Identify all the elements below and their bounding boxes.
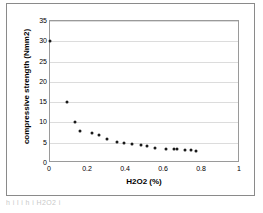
x-axis-tick-labels: 00.20.40.60.81: [49, 164, 239, 176]
x-axis-title: H2O2 (%): [49, 177, 239, 186]
x-axis-tick-label: 0: [47, 164, 51, 173]
data-point: [115, 140, 118, 143]
data-point: [123, 142, 126, 145]
data-point: [176, 148, 179, 151]
y-axis-title: compressive strength (Nmm2): [22, 16, 31, 158]
gridline: [50, 62, 238, 63]
data-point: [66, 100, 69, 103]
data-point: [189, 149, 192, 152]
x-axis-tick-label: 0.8: [196, 164, 206, 173]
x-axis-tick-label: 0.2: [82, 164, 92, 173]
x-axis-tick-label: 0.4: [120, 164, 130, 173]
data-point: [98, 134, 101, 137]
gridline: [50, 102, 238, 103]
gridline: [50, 21, 238, 22]
caption-fragment: h i l i h i H2O2 i: [6, 199, 256, 208]
data-point: [79, 129, 82, 132]
data-point: [90, 131, 93, 134]
data-point: [172, 148, 175, 151]
gridline: [50, 82, 238, 83]
data-point: [130, 142, 133, 145]
gridline: [50, 41, 238, 42]
x-axis-tick-label: 0.6: [158, 164, 168, 173]
data-point: [164, 147, 167, 150]
gridline: [50, 143, 238, 144]
data-point: [153, 146, 156, 149]
data-point: [140, 144, 143, 147]
data-point: [195, 150, 198, 153]
data-point: [106, 138, 109, 141]
gridline: [50, 122, 238, 123]
figure-frame: 05101520253035 00.20.40.60.81 H2O2 (%) c…: [6, 3, 255, 196]
data-point: [145, 145, 148, 148]
data-point: [73, 121, 76, 124]
scatter-chart: 05101520253035 00.20.40.60.81 H2O2 (%) c…: [7, 4, 256, 197]
data-point: [183, 149, 186, 152]
data-point: [49, 40, 52, 43]
y-axis-tick-label: 0: [25, 159, 47, 166]
x-axis-tick-label: 1: [237, 164, 241, 173]
plot-area: [49, 20, 239, 162]
